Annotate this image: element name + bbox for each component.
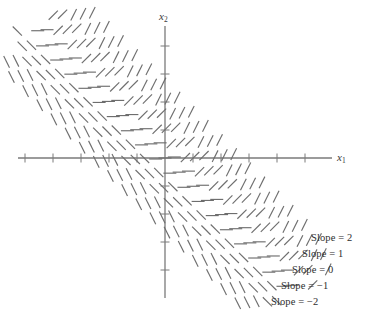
slope-segment <box>112 126 121 135</box>
slope-legend-label-1: Slope = 1 <box>302 249 343 260</box>
slope-segment <box>221 283 227 295</box>
slope-segment <box>65 128 71 140</box>
slope-segment <box>63 25 72 34</box>
slope-segment <box>292 220 298 232</box>
slope-segment <box>108 170 114 182</box>
slope-segment <box>105 67 114 76</box>
slope-segment <box>273 191 279 203</box>
slope-segment <box>178 241 184 253</box>
slope-segment <box>188 106 194 118</box>
slope-segment <box>51 85 60 94</box>
slope-segment <box>258 282 267 291</box>
slope-segment <box>115 66 124 75</box>
slope-segment <box>221 149 227 161</box>
slope-segment <box>183 225 189 237</box>
slope-segment <box>253 295 259 307</box>
slope-segment <box>99 37 105 49</box>
slope-segment <box>23 85 29 97</box>
slope-segment <box>13 55 19 67</box>
slope-segment <box>192 255 198 267</box>
slope-segment <box>256 208 265 217</box>
slope-segment <box>143 94 152 103</box>
slope-segment <box>302 219 308 231</box>
slope-segment <box>84 126 90 138</box>
slope-segment <box>89 7 95 19</box>
slope-segment <box>37 99 43 111</box>
slope-segment <box>46 70 55 79</box>
slope-segment <box>108 36 114 48</box>
slope-segment <box>171 123 180 132</box>
slope-segment <box>203 120 209 132</box>
slope-segment <box>233 194 242 203</box>
slope-segment <box>159 212 165 224</box>
slope-segment <box>211 253 217 265</box>
slope-segment <box>297 235 303 247</box>
slope-segment <box>230 282 236 294</box>
slope-segment <box>131 155 140 164</box>
slope-segment <box>54 26 63 35</box>
slope-segment <box>245 162 251 174</box>
slope-segment <box>49 11 58 20</box>
slope-segment <box>228 179 237 188</box>
slope-legend-label-2: Slope = 0 <box>292 265 333 276</box>
slope-segment <box>270 222 279 231</box>
slope-segment <box>239 281 245 293</box>
slope-segment <box>239 253 248 262</box>
slope-segment <box>124 96 133 105</box>
slope-segment <box>79 113 88 122</box>
slope-segment <box>138 111 147 120</box>
slope-segment <box>79 142 85 154</box>
slope-segment <box>22 57 31 66</box>
slope-segment <box>117 169 123 181</box>
slope-segment <box>151 79 157 91</box>
slope-segment <box>89 141 95 153</box>
slope-segment <box>218 180 227 189</box>
slope-segment <box>126 140 135 149</box>
slope-segment <box>269 207 275 219</box>
slope-segment <box>137 65 143 77</box>
slope-segment <box>71 9 77 21</box>
slope-segment <box>104 21 110 33</box>
slope-segment <box>259 177 265 189</box>
slope-segment <box>100 52 109 61</box>
slope-segment <box>18 42 27 51</box>
slope-segment <box>4 56 10 68</box>
slope-segment <box>170 108 176 120</box>
slope-segment <box>121 156 130 165</box>
slope-segment <box>141 80 147 92</box>
slope-segment <box>82 54 91 63</box>
slope-segment <box>80 8 86 20</box>
slope-segment <box>195 167 204 176</box>
slope-segment <box>127 66 133 78</box>
slope-segment <box>93 128 102 137</box>
slope-segment <box>156 94 162 106</box>
slope-segment <box>179 107 185 119</box>
slope-segment <box>244 296 250 308</box>
slope-segment <box>51 114 57 126</box>
slope-segment <box>72 24 81 33</box>
slope-segment <box>236 164 242 176</box>
slope-segment <box>207 135 213 147</box>
slope-segment <box>280 252 289 261</box>
slope-segment <box>199 151 208 160</box>
slope-segment <box>41 83 47 95</box>
slope-segment <box>46 98 52 110</box>
slope-segment <box>98 140 104 152</box>
slope-segment <box>65 99 74 108</box>
slope-segment <box>190 152 199 161</box>
slope-segment <box>230 254 239 263</box>
axes-group <box>18 26 332 298</box>
slope-segment <box>83 97 92 106</box>
slope-segment <box>129 80 138 89</box>
slope-segment <box>250 178 256 190</box>
slope-segment <box>198 136 204 148</box>
slope-segment <box>136 198 142 210</box>
y-axis-label: x2 <box>159 11 168 22</box>
y-axis-label-sub: 2 <box>164 15 168 24</box>
slope-segment <box>174 92 180 104</box>
slope-segment <box>94 22 100 34</box>
slope-segment <box>287 205 293 217</box>
slope-segment <box>197 239 203 251</box>
slope-segment <box>178 212 187 221</box>
slope-segment <box>209 181 218 190</box>
